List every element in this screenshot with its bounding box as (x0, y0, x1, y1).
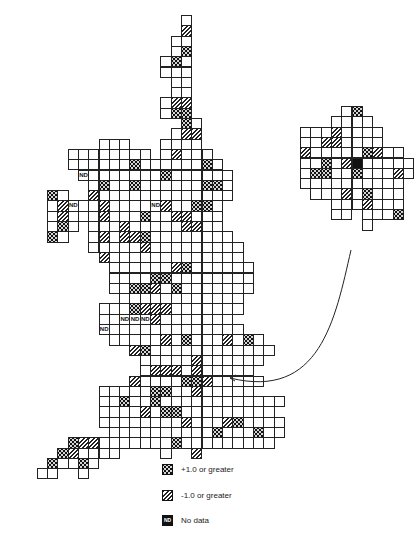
no-data-swatch-icon: ND (162, 515, 173, 526)
arrow-icon (0, 0, 420, 543)
legend-label: -1.0 or greater (181, 491, 232, 500)
grid-map: NDNDNDNDNDNDND +1.0 or greater -1.0 or g… (0, 0, 420, 543)
legend-item-no-data: ND No data (162, 515, 209, 526)
legend-item-positive: +1.0 or greater (162, 464, 234, 475)
legend-item-negative: -1.0 or greater (162, 490, 232, 501)
crosshatch-swatch-icon (162, 464, 173, 475)
legend-label: +1.0 or greater (181, 465, 234, 474)
legend-label: No data (181, 516, 209, 525)
hatch-swatch-icon (162, 490, 173, 501)
